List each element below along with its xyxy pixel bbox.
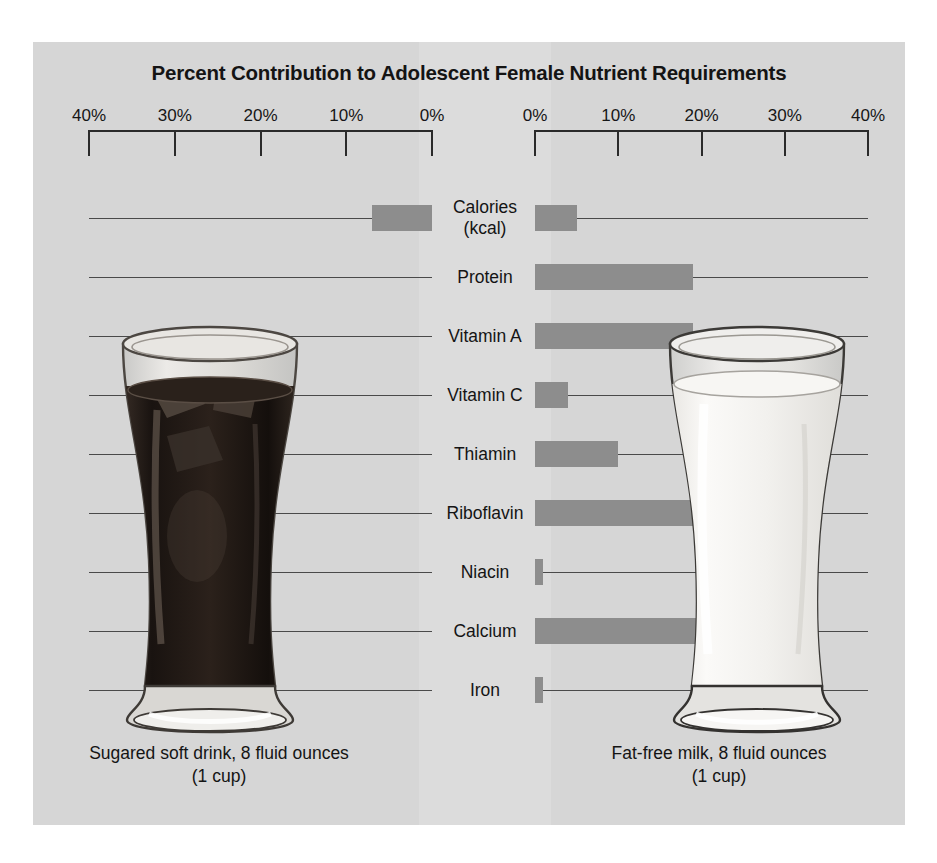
category-label-line: Calories xyxy=(419,197,551,218)
right-axis-tick xyxy=(784,130,786,156)
right-axis-tick xyxy=(867,130,869,156)
right-caption-line1: Fat-free milk, 8 fluid ounces xyxy=(539,742,899,765)
left-axis-tick-label: 30% xyxy=(158,106,192,126)
right-axis-tick xyxy=(701,130,703,156)
category-label: Iron xyxy=(419,680,551,701)
left-axis-tick-label: 10% xyxy=(329,106,363,126)
right-axis-tick-label: 0% xyxy=(523,106,548,126)
category-label: Calories(kcal) xyxy=(419,197,551,239)
left-axis-tick-label: 20% xyxy=(243,106,277,126)
left-axis-tick-label: 0% xyxy=(420,106,445,126)
category-label-line: (kcal) xyxy=(419,218,551,239)
left-caption-line2: (1 cup) xyxy=(39,765,399,788)
category-label: Protein xyxy=(419,267,551,288)
left-axis-tick xyxy=(88,130,90,156)
right-axis-tick xyxy=(534,130,536,156)
centre-label-strip xyxy=(419,42,551,825)
category-label: Vitamin A xyxy=(419,326,551,347)
left-axis-tick xyxy=(431,130,433,156)
right-caption-line2: (1 cup) xyxy=(539,765,899,788)
right-axis-tick-label: 20% xyxy=(684,106,718,126)
milk-glass-image xyxy=(652,314,862,734)
category-label: Riboflavin xyxy=(419,503,551,524)
category-label: Niacin xyxy=(419,562,551,583)
soft-drink-glass-image xyxy=(105,314,315,734)
right-axis: 0%10%20%30%40% xyxy=(535,130,868,164)
left-caption-line1: Sugared soft drink, 8 fluid ounces xyxy=(39,742,399,765)
chart-title: Percent Contribution to Adolescent Femal… xyxy=(33,61,905,85)
row-gridline xyxy=(535,218,868,219)
left-caption: Sugared soft drink, 8 fluid ounces (1 cu… xyxy=(39,742,399,788)
right-axis-tick xyxy=(617,130,619,156)
left-axis-tick xyxy=(174,130,176,156)
right-axis-tick-label: 30% xyxy=(768,106,802,126)
figure-root: Percent Contribution to Adolescent Femal… xyxy=(0,0,937,863)
left-axis-tick-label: 40% xyxy=(72,106,106,126)
category-label: Thiamin xyxy=(419,444,551,465)
right-caption: Fat-free milk, 8 fluid ounces (1 cup) xyxy=(539,742,899,788)
left-axis: 40%30%20%10%0% xyxy=(89,130,432,164)
left-axis-tick xyxy=(345,130,347,156)
chart-panel: Percent Contribution to Adolescent Femal… xyxy=(33,42,905,825)
bar-right-protein xyxy=(535,264,693,290)
right-axis-tick-label: 10% xyxy=(601,106,635,126)
category-label: Vitamin C xyxy=(419,385,551,406)
category-label: Calcium xyxy=(419,621,551,642)
left-axis-tick xyxy=(260,130,262,156)
right-axis-tick-label: 40% xyxy=(851,106,885,126)
row-gridline xyxy=(89,277,432,278)
